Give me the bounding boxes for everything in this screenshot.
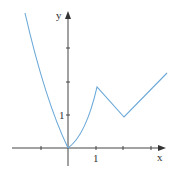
function-curve — [25, 13, 167, 148]
y-axis-label: y — [56, 9, 62, 21]
y-tick-label-1: 1 — [59, 109, 65, 121]
y-axis-arrow-icon — [65, 11, 71, 19]
function-graph: x y 1 1 — [0, 0, 175, 170]
x-tick-label-1: 1 — [93, 152, 99, 164]
x-axis-label: x — [157, 151, 163, 163]
